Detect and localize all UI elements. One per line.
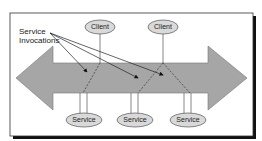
service-invocation-diagram: Service Invocations Client Client Servic… — [0, 0, 262, 141]
service-label: Service — [123, 116, 146, 123]
annotation-label-line2: Invocations — [19, 36, 59, 45]
service-label: Service — [72, 116, 95, 123]
service-node-3: Service — [170, 113, 206, 127]
client-node-1: Client — [85, 20, 115, 34]
client-node-2: Client — [148, 20, 178, 34]
client-label: Client — [91, 23, 109, 30]
annotation-label-line1: Service — [19, 27, 46, 36]
service-label: Service — [176, 116, 199, 123]
service-node-1: Service — [66, 113, 102, 127]
client-label: Client — [154, 23, 172, 30]
service-node-2: Service — [117, 113, 153, 127]
